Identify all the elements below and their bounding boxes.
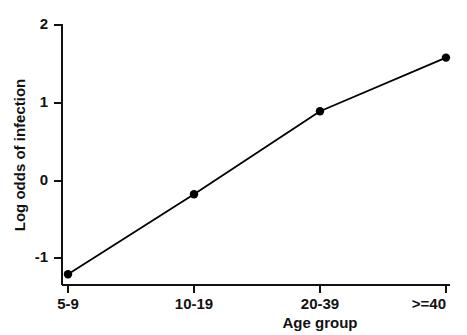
x-axis-title: Age group [283, 314, 358, 331]
y-tick-label-2: 2 [40, 15, 48, 32]
y-tick-label-0: 0 [40, 171, 48, 188]
x-axis-ticks [68, 285, 446, 293]
data-point-20-39 [316, 107, 324, 115]
figure-container: 2 1 0 -1 5-9 10-19 20-39 >=40 Age group … [0, 0, 467, 335]
data-point->=40 [442, 53, 450, 61]
data-series-line [68, 58, 446, 275]
x-tick-label-5-9: 5-9 [57, 295, 79, 312]
y-axis-title: Log odds of infection [11, 79, 28, 231]
data-point-5-9 [64, 270, 72, 278]
data-point-10-19 [190, 190, 198, 198]
x-tick-label-10-19: 10-19 [175, 295, 213, 312]
y-tick-label-minus1: -1 [35, 248, 48, 265]
x-tick-label-ge40: >=40 [412, 295, 446, 312]
data-point-markers [64, 53, 450, 278]
line-chart: 2 1 0 -1 5-9 10-19 20-39 >=40 Age group … [0, 0, 467, 335]
x-tick-label-20-39: 20-39 [301, 295, 339, 312]
y-axis-ticks [54, 25, 62, 258]
y-tick-label-1: 1 [40, 93, 48, 110]
